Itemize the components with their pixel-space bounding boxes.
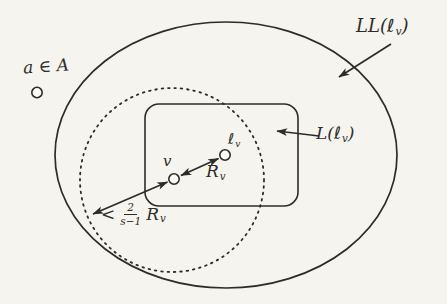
point-a xyxy=(32,87,42,97)
less-than-sign: < xyxy=(101,206,115,223)
fraction-numerator: 2 xyxy=(124,201,137,215)
label-point-lv: ℓv xyxy=(228,132,240,147)
label-lv-main: ℓ xyxy=(228,130,234,148)
label-a-in-A: a ∈ A xyxy=(22,56,69,76)
label-distance-bound: < 2 s−1 Rv xyxy=(101,201,166,227)
label-bound-Rv-main: R xyxy=(146,204,159,224)
label-radius-Rv: Rv xyxy=(206,163,226,180)
figure-canvas: a ∈ A LL(ℓv) L(ℓv) v ℓv Rv < 2 s−1 Rv xyxy=(0,0,447,304)
label-LL-subscript: v xyxy=(395,25,401,38)
label-L-prefix: L(ℓ xyxy=(316,123,341,143)
label-Rv-main: R xyxy=(206,161,219,181)
label-LL-set: LL(ℓv) xyxy=(356,17,409,35)
fraction-denominator: s−1 xyxy=(119,215,142,228)
label-LL-suffix: ) xyxy=(401,15,408,36)
label-point-v: v xyxy=(163,154,171,169)
label-lv-subscript: v xyxy=(235,139,240,149)
label-bound-Rv-subscript: v xyxy=(160,213,166,224)
label-L-suffix: ) xyxy=(348,123,355,143)
point-v xyxy=(169,174,179,184)
fraction-2-over-s-minus-1: 2 s−1 xyxy=(119,201,142,227)
point-lv xyxy=(220,150,230,160)
label-bound-Rv: Rv xyxy=(146,206,166,223)
label-Rv-subscript: v xyxy=(220,171,226,182)
label-L-subscript: v xyxy=(342,133,348,144)
diagram-svg xyxy=(0,0,447,304)
label-L-set: L(ℓv) xyxy=(316,125,354,142)
label-LL-prefix: LL(ℓ xyxy=(356,15,394,36)
